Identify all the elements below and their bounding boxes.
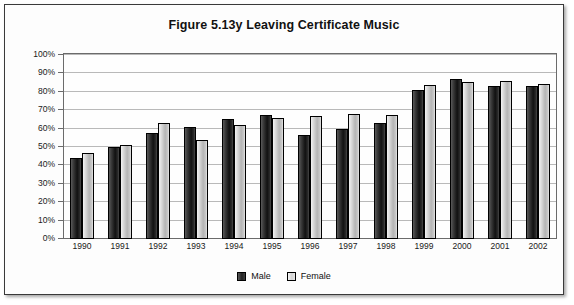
bar-group (253, 53, 291, 239)
y-axis-tick-label: 60% (38, 123, 55, 133)
bar-male-2002 (526, 86, 538, 239)
bar-group (519, 53, 557, 239)
x-axis-tick-label: 1995 (253, 241, 291, 257)
bar-female-2002 (538, 84, 550, 239)
y-axis-tick-label: 90% (38, 67, 55, 77)
bar-group (329, 53, 367, 239)
figure-frame: Figure 5.13y Leaving Certificate Music 0… (4, 4, 564, 295)
bar-male-1998 (374, 123, 386, 239)
bar-group (101, 53, 139, 239)
bar-female-1998 (386, 115, 398, 239)
page-title: Figure 5.13y Leaving Certificate Music (5, 18, 563, 32)
bar-male-1999 (412, 90, 424, 239)
bar-male-1995 (260, 115, 272, 239)
legend-item-male: Male (237, 271, 271, 281)
chart-legend: MaleFemale (5, 271, 563, 281)
x-axis-tick-label: 1992 (139, 241, 177, 257)
bar-female-1999 (424, 85, 436, 239)
bar-group (63, 53, 101, 239)
bar-male-1993 (184, 127, 196, 239)
bar-male-1992 (146, 133, 158, 239)
bar-male-1991 (108, 147, 120, 239)
bar-group (367, 53, 405, 239)
legend-item-female: Female (287, 271, 331, 281)
x-axis-tick-label: 1998 (367, 241, 405, 257)
bar-group (291, 53, 329, 239)
bar-male-1996 (298, 135, 310, 239)
x-axis-tick-label: 1996 (291, 241, 329, 257)
bars-layer (63, 53, 557, 239)
y-axis-tick-label: 0% (43, 233, 55, 243)
bar-male-2000 (450, 79, 462, 239)
bar-male-1990 (70, 158, 82, 239)
y-axis-tick-label: 10% (38, 215, 55, 225)
legend-label: Male (251, 271, 271, 281)
bar-group (443, 53, 481, 239)
x-axis-tick-label: 1994 (215, 241, 253, 257)
bar-group (215, 53, 253, 239)
bar-group (405, 53, 443, 239)
x-axis-tick-label: 2002 (519, 241, 557, 257)
bar-female-1994 (234, 125, 246, 239)
bar-male-1994 (222, 119, 234, 239)
bar-group (139, 53, 177, 239)
bar-female-1992 (158, 123, 170, 239)
bar-female-2000 (462, 82, 474, 239)
x-axis-tick-label: 2001 (481, 241, 519, 257)
x-axis-tick-label: 1991 (101, 241, 139, 257)
bar-group (481, 53, 519, 239)
y-axis-tick-label: 20% (38, 196, 55, 206)
bar-female-2001 (500, 81, 512, 239)
y-axis: 0%10%20%30%40%50%60%70%80%90%100% (5, 53, 63, 241)
legend-swatch-icon (237, 272, 246, 281)
bar-female-1997 (348, 114, 360, 239)
bar-male-2001 (488, 86, 500, 239)
y-axis-tick-label: 70% (38, 104, 55, 114)
bar-female-1990 (82, 153, 94, 239)
bar-female-1993 (196, 140, 208, 239)
x-axis-tick-label: 1999 (405, 241, 443, 257)
bar-female-1991 (120, 145, 132, 239)
bar-female-1995 (272, 118, 284, 239)
legend-swatch-icon (287, 272, 296, 281)
y-axis-tick-label: 100% (33, 49, 55, 59)
x-axis-tick-label: 2000 (443, 241, 481, 257)
y-axis-tick-label: 30% (38, 178, 55, 188)
bar-group (177, 53, 215, 239)
x-axis-tick-label: 1993 (177, 241, 215, 257)
x-axis-tick-label: 1990 (63, 241, 101, 257)
bar-female-1996 (310, 116, 322, 239)
legend-label: Female (301, 271, 331, 281)
bar-male-1997 (336, 129, 348, 239)
y-axis-tick-label: 80% (38, 86, 55, 96)
y-axis-tick-label: 40% (38, 159, 55, 169)
x-axis: 1990199119921993199419951996199719981999… (63, 241, 557, 257)
y-axis-tick-label: 50% (38, 141, 55, 151)
x-axis-tick-label: 1997 (329, 241, 367, 257)
